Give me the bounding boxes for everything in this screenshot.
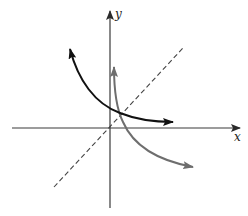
graph-canvas: y x [0, 0, 248, 216]
x-axis-label: x [234, 130, 241, 144]
inverse-function-curve [114, 67, 193, 167]
exponential-curve [70, 49, 173, 122]
identity-line [54, 48, 183, 187]
y-axis-label: y [114, 7, 122, 21]
